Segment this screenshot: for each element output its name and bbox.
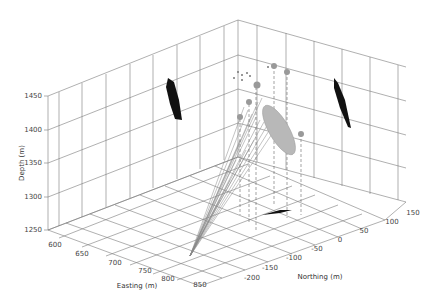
z-tick: 1300 bbox=[24, 193, 42, 201]
z-tick: 1450 bbox=[24, 92, 42, 100]
z-tick: 1350 bbox=[24, 159, 42, 167]
z-tick: 1250 bbox=[24, 226, 42, 234]
projection-easting-depth bbox=[166, 78, 182, 120]
y-tick: 100 bbox=[385, 218, 398, 226]
x-tick: 800 bbox=[161, 275, 174, 283]
projection-easting-northing bbox=[262, 210, 292, 215]
small-points bbox=[233, 66, 269, 81]
x-tick: 750 bbox=[138, 267, 151, 275]
x-tick: 600 bbox=[48, 241, 61, 249]
y-tick: 0 bbox=[338, 236, 342, 244]
y-tick: 50 bbox=[360, 227, 369, 235]
x-tick: 700 bbox=[108, 259, 121, 267]
y-tick: -50 bbox=[311, 245, 322, 253]
z-axis-label: Depth (m) bbox=[18, 145, 26, 181]
x-tick: 650 bbox=[75, 250, 88, 258]
ray-paths bbox=[190, 98, 276, 256]
3d-plot: 1450 1400 1350 1300 1250 Depth (m) 600 6… bbox=[0, 0, 435, 303]
y-tick: -150 bbox=[262, 264, 278, 272]
z-axis-ticks: 1450 1400 1350 1300 1250 bbox=[24, 92, 48, 234]
y-tick: -100 bbox=[286, 254, 302, 262]
x-axis-label: Easting (m) bbox=[117, 282, 158, 290]
y-tick: -200 bbox=[244, 274, 260, 282]
back-left-wall-grid bbox=[48, 20, 238, 230]
x-tick: 850 bbox=[193, 281, 206, 289]
y-tick: 150 bbox=[406, 209, 419, 217]
z-tick: 1400 bbox=[24, 126, 42, 134]
y-axis-label: Northing (m) bbox=[298, 273, 343, 281]
